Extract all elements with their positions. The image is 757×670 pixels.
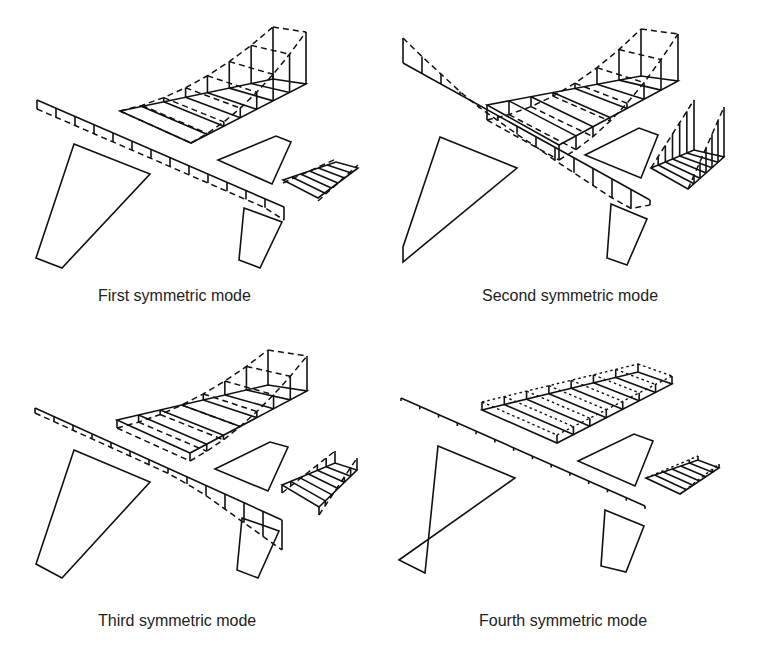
wing-rib — [504, 405, 573, 435]
lower-wing-panel — [36, 450, 150, 578]
lower-wing-panel — [403, 137, 517, 262]
wing-panel — [120, 79, 306, 143]
aircraft-mode-diagram — [0, 0, 378, 335]
tail-rib — [665, 162, 700, 178]
wing-rib — [527, 399, 590, 426]
tail-rib — [300, 478, 332, 495]
wing-rib-deformed — [142, 105, 208, 133]
caption-third-mode: Third symmetric mode — [98, 612, 256, 630]
wing-rib-deformed — [139, 422, 207, 451]
horizontal-tail-panel — [651, 150, 724, 189]
wing-rib — [203, 400, 257, 418]
wing-rib-deformed — [504, 397, 573, 427]
ventral-fin-panel — [239, 208, 282, 268]
ventral-fin-panel — [601, 510, 644, 572]
wing-rib — [160, 410, 223, 435]
ventral-fin-panel — [237, 518, 279, 578]
vertical-stabilizer-panel — [215, 442, 288, 491]
wing-rib — [225, 395, 274, 409]
tail-rib — [672, 469, 700, 481]
tail-rib — [291, 481, 326, 501]
tail-rib — [663, 472, 693, 485]
wing-trailing-edge-deformed — [191, 32, 306, 143]
tail-rib — [309, 474, 339, 489]
wing-rib-deformed — [619, 50, 661, 60]
panel-first-mode: First symmetric mode — [0, 0, 378, 335]
wing-rib-deformed — [509, 115, 576, 150]
lower-wing-panel — [399, 446, 515, 573]
tail-rib — [292, 177, 325, 193]
lower-wing-panel — [36, 144, 150, 268]
wing-panel — [487, 76, 678, 145]
panel-fourth-mode: Fourth symmetric mode — [379, 335, 757, 670]
horizontal-tail-panel — [646, 460, 719, 494]
wing-panel — [117, 385, 307, 453]
fuselage-beam — [35, 408, 282, 520]
vertical-stabilizer-panel — [218, 136, 291, 184]
tail-rib — [327, 165, 351, 173]
tail-rib — [310, 171, 339, 183]
wing-rib — [207, 93, 256, 110]
wing-rib-deformed — [251, 45, 289, 54]
wing-rib — [553, 93, 610, 118]
fuselage-deformed — [403, 38, 650, 208]
fuselage-deformed — [37, 109, 284, 220]
tail-leading-edge-deformed — [282, 451, 335, 493]
wing-rib — [593, 383, 639, 401]
tail-rib — [680, 156, 712, 168]
horizontal-tail-panel — [283, 162, 358, 198]
fuselage-beam — [37, 100, 284, 207]
aircraft-mode-diagram — [379, 0, 757, 335]
wing-tip-deformed — [273, 27, 306, 32]
vertical-stabilizer-panel — [578, 434, 653, 486]
caption-first-mode: First symmetric mode — [98, 287, 251, 305]
wing-tip-deformed — [641, 29, 678, 34]
wing-trailing-edge-deformed — [190, 356, 307, 461]
fuselage-beam — [403, 63, 650, 200]
panel-third-mode: Third symmetric mode — [0, 335, 378, 670]
wing-rib — [142, 106, 208, 134]
wing-rib — [616, 377, 656, 392]
wing-tip-deformed — [268, 350, 307, 356]
wing-root-deformed — [487, 120, 559, 160]
tail-rib — [655, 475, 687, 490]
tail-rib — [301, 174, 332, 188]
wing-rib — [164, 102, 224, 126]
wing-rib — [509, 101, 576, 136]
ventral-fin-panel — [607, 204, 647, 265]
wing-rib-deformed — [553, 96, 610, 121]
caption-second-mode: Second symmetric mode — [482, 287, 658, 305]
panel-second-mode: Second symmetric mode — [379, 0, 757, 335]
wing-rib-deformed — [527, 391, 590, 418]
wing-rib — [229, 88, 273, 101]
wing-rib — [246, 390, 290, 400]
tail-rib — [326, 467, 351, 477]
caption-fourth-mode: Fourth symmetric mode — [479, 612, 647, 630]
